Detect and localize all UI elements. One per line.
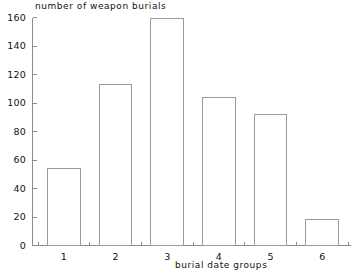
y-tick-label: 20 [0, 211, 26, 222]
bar-chart-figure: number of weapon burials 020406080100120… [0, 0, 362, 278]
x-tick-label: 6 [312, 251, 332, 262]
bar [254, 114, 287, 245]
bar [306, 220, 339, 246]
y-tick-label: 80 [0, 126, 26, 137]
bar [151, 19, 184, 246]
x-axis-title: burial date groups [175, 260, 267, 270]
bar [203, 97, 236, 245]
x-tick-label: 1 [54, 251, 74, 262]
plot-area [0, 0, 362, 278]
bar [99, 85, 132, 246]
y-tick-label: 60 [0, 154, 26, 165]
y-tick-label: 120 [0, 69, 26, 80]
y-tick-label: 100 [0, 97, 26, 108]
y-tick-label: 40 [0, 183, 26, 194]
y-tick-label: 140 [0, 40, 26, 51]
x-tick-label: 2 [106, 251, 126, 262]
bars-group [48, 19, 339, 246]
y-tick-label: 0 [0, 240, 26, 251]
y-tick-label: 160 [0, 12, 26, 23]
bar [48, 169, 81, 246]
